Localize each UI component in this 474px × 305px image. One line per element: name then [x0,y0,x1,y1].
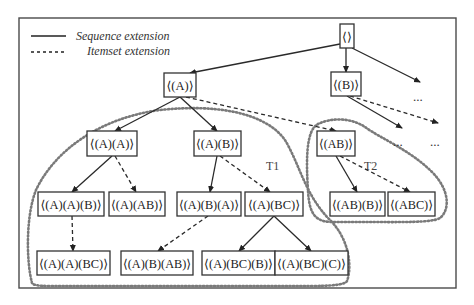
node-label: ⟨(A)(BC)(C)⟩ [277,257,346,271]
ellipses: ......... [393,89,440,149]
nodes: ⟨⟩⟨(A)⟩⟨(B)⟩⟨(A)(A)⟩⟨(A)(B)⟩⟨(AB)⟩⟨(A)(A… [37,24,435,275]
legend: Sequence extension Itemset extension [31,29,170,58]
node-AB_B: ⟨(AB)(B)⟩ [330,192,385,216]
node-ABC_B: ⟨(A)(BC)(B)⟩ [202,251,275,275]
sequence-edge-A_BC-ABC_C [274,216,311,251]
itemset-edge-B-more [350,96,438,123]
node-label: ⟨(A)(B)(AB)⟩ [123,257,191,271]
itemset-edge-ABA-AB_AB [158,216,208,251]
node-label: ⟨(ABC)⟩ [390,198,433,212]
node-label: ⟨(AB)⟩ [319,137,353,151]
node-A_AB: ⟨(A)(AB)⟩ [109,192,165,216]
node-root: ⟨⟩ [340,24,354,48]
node-AB_seq: ⟨(A)(B)⟩ [194,131,241,156]
group-label-t2: T2 [364,159,377,173]
node-label: ⟨(AB)(B)⟩ [332,198,383,212]
node-label: ⟨⟩ [342,30,352,44]
node-ABC_C: ⟨(A)(BC)(C)⟩ [275,251,348,275]
node-label: ⟨(A)⟩ [166,79,193,93]
node-label: ⟨(A)(BC)⟩ [248,198,300,212]
sequence-enumeration-tree: Sequence extension Itemset extension T1T… [0,0,474,305]
node-label: ⟨(B)⟩ [333,78,359,92]
sequence-edge-AB_item-AB_B [336,156,357,192]
sequence-edge-root-more [352,48,420,82]
node-label: ⟨(A)(BC)(B)⟩ [204,257,273,271]
sequence-edge-AB_seq-ABA [210,156,217,192]
node-label: ⟨(A)(B)(A)⟩ [179,198,239,212]
sequence-edge-A_BC-ABC_B [239,216,274,251]
node-label: ⟨(A)(AB)⟩ [111,198,163,212]
itemset-edge-A-AB_item [186,97,336,131]
legend-itemset-label: Itemset extension [86,44,170,58]
node-label: ⟨(A)(B)⟩ [196,137,239,151]
itemset-edge-AA-A_AB [115,156,136,192]
group-label-t1: T1 [266,159,279,173]
ellipsis-more-nodes: ... [430,134,440,149]
sequence-edge-A-AA [115,97,180,131]
legend-sequence-label: Sequence extension [76,29,170,43]
node-AA_BC: ⟨(A)(A)(BC)⟩ [37,251,110,275]
node-B: ⟨(B)⟩ [331,72,361,96]
node-ABC: ⟨(ABC)⟩ [388,192,435,216]
node-label: ⟨(A)(A)(B)⟩ [40,198,101,212]
node-AA: ⟨(A)(A)⟩ [87,131,137,156]
node-label: ⟨(A)(A)(BC)⟩ [39,257,108,271]
node-AB_AB: ⟨(A)(B)(AB)⟩ [121,251,193,275]
sequence-edge-AA-AAB [72,156,112,192]
node-AAB: ⟨(A)(A)(B)⟩ [38,192,104,216]
ellipsis-more-nodes: ... [393,134,403,149]
itemset-edge-AB_seq-A_BC [220,156,270,192]
itemset-edge-AAB-AA_BC [72,216,73,251]
node-A_BC: ⟨(A)(BC)⟩ [245,192,303,216]
ellipsis-more-nodes: ... [413,89,423,104]
sequence-edge-A-AB_seq [180,97,217,131]
node-AB_item: ⟨(AB)⟩ [317,131,355,156]
sequence-edge-root-A [190,44,340,73]
node-ABA: ⟨(A)(B)(A)⟩ [177,192,241,216]
node-A: ⟨(A)⟩ [164,73,196,97]
node-label: ⟨(A)(A)⟩ [90,137,134,151]
